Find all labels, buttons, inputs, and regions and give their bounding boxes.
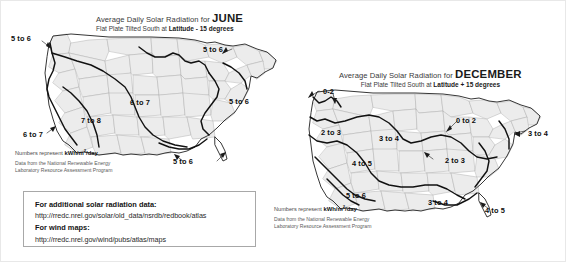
december-map-caption: Numbers represent kWh/m2/day Data from t… (274, 204, 371, 231)
december-label-6: 4 to 5 (352, 159, 372, 168)
june-caption-unit-tail: /day (86, 150, 98, 156)
december-label-4: 3 to 4 (379, 134, 399, 143)
december-label-10: 4 to 5 (485, 206, 505, 215)
december-caption-unit-tail: /day (345, 206, 357, 212)
december-source-line-1: Data from the National Renewable Energy (274, 216, 371, 223)
december-label-5: 2 to 3 (445, 156, 465, 165)
solar-data-heading: For additional solar radiation data: (35, 199, 255, 210)
june-label-6: 5 to 6 (173, 157, 193, 166)
december-source-line-2: Laboratory Resource Assessment Program (274, 223, 371, 230)
june-caption-prefix: Numbers represent (15, 150, 64, 156)
june-label-1: 5 to 6 (203, 45, 223, 54)
reference-sheet-page: Average Daily Solar Radiation for JUNE F… (0, 0, 566, 262)
december-caption-unit: kWh/m (323, 206, 342, 212)
december-caption-prefix: Numbers represent (274, 206, 323, 212)
june-source-line-1: Data from the National Renewable Energy (15, 160, 112, 167)
june-source-line-2: Laboratory Resource Assessment Program (15, 167, 112, 174)
june-label-4: 7 to 8 (81, 116, 101, 125)
solar-data-url[interactable]: http://rredc.nrel.gov/solar/old_data/nsr… (35, 210, 255, 222)
december-label-8: 5 to 6 (346, 191, 366, 200)
june-map-caption: Numbers represent kWh/m2/day Data from t… (15, 148, 112, 175)
december-label-9: 3 to 4 (428, 198, 448, 207)
december-label-2: 3 to 4 (528, 129, 548, 138)
december-map-panel: Average Daily Solar Radiation for DECEMB… (267, 59, 566, 259)
june-label-5: 6 to 7 (23, 130, 43, 139)
wind-maps-heading: For wind maps: (35, 222, 255, 233)
june-label-2: 5 to 6 (229, 97, 249, 106)
december-label-0: 0-2 (323, 87, 334, 96)
december-label-3: 2 to 3 (321, 128, 341, 137)
wind-maps-url[interactable]: http://rredc.nrel.gov/wind/pubs/atlas/ma… (35, 234, 255, 246)
december-label-1: 0 to 2 (456, 116, 476, 125)
june-caption-unit: kWh/m (64, 150, 83, 156)
june-label-3: 6 to 7 (130, 98, 150, 107)
reference-links-box: For additional solar radiation data: htt… (23, 191, 256, 247)
june-label-0: 5 to 6 (11, 34, 31, 43)
june-map-panel: Average Daily Solar Radiation for JUNE F… (1, 1, 301, 186)
